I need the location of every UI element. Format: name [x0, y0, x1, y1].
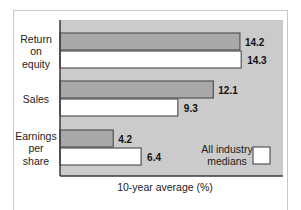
legend: All industry medians: [201, 143, 270, 167]
value-label: 12.1: [218, 85, 238, 96]
value-label: 14.3: [247, 55, 267, 66]
value-label: 14.2: [245, 37, 265, 48]
category-label: on: [30, 45, 42, 57]
bar-company-1: [60, 81, 213, 98]
legend-label-line-1: All industry: [201, 143, 253, 155]
category-label: equity: [22, 58, 51, 70]
bar-industry-median-1: [60, 99, 178, 116]
legend-swatch-industry-medians: [253, 147, 270, 164]
bar-chart: ReturnonequitySalesEarningspershare 14.2…: [0, 0, 301, 210]
category-label: Sales: [23, 93, 49, 105]
category-label: share: [23, 155, 49, 167]
category-label: Earnings: [15, 130, 56, 142]
bar-company-2: [60, 130, 113, 147]
x-axis-label: 10-year average (%): [117, 181, 213, 193]
value-label: 4.2: [118, 134, 132, 145]
value-label: 9.3: [184, 103, 198, 114]
legend-label-line-2: medians: [207, 155, 247, 167]
bar-industry-median-2: [60, 148, 141, 165]
value-label: 6.4: [147, 152, 161, 163]
category-label: per: [28, 142, 44, 154]
category-label: Return: [20, 33, 52, 45]
bar-industry-median-0: [60, 51, 241, 68]
bar-company-0: [60, 33, 240, 50]
